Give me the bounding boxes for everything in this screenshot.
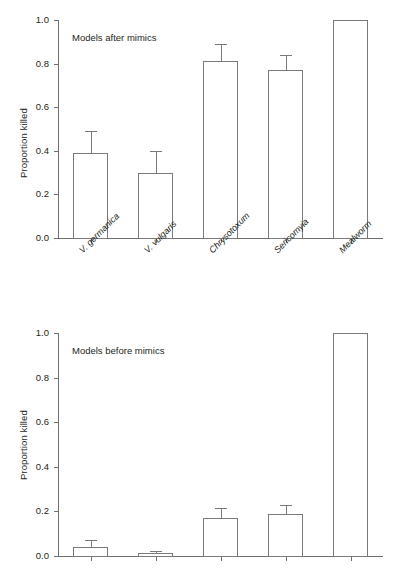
error-bar-cap-bottom-1 bbox=[150, 551, 162, 552]
x-tick-bottom-4 bbox=[351, 557, 352, 561]
y-axis-line-bottom bbox=[58, 333, 59, 556]
error-bar-cap-top-3 bbox=[280, 55, 292, 56]
error-bar-stem-top-2 bbox=[221, 44, 222, 61]
x-tick-bottom-3 bbox=[286, 557, 287, 561]
y-tick-top-1 bbox=[54, 194, 58, 195]
error-bar-stem-top-1 bbox=[156, 151, 157, 173]
y-tick-label-bottom-1: 0.2 bbox=[18, 505, 49, 516]
y-tick-label-top-2: 0.4 bbox=[18, 145, 49, 156]
bar-top-2 bbox=[203, 61, 238, 239]
y-tick-bottom-3 bbox=[54, 422, 58, 423]
error-bar-cap-top-2 bbox=[215, 44, 227, 45]
y-tick-label-bottom-0: 0.0 bbox=[18, 550, 49, 561]
panel-title-top: Models after mimics bbox=[72, 32, 156, 43]
y-tick-bottom-4 bbox=[54, 378, 58, 379]
bar-bottom-0 bbox=[73, 547, 108, 557]
error-bar-stem-bottom-3 bbox=[286, 505, 287, 514]
chart-panel-top: Proportion killed 0.00.20.40.60.81.0V. g… bbox=[0, 0, 393, 300]
figure-container: Proportion killed 0.00.20.40.60.81.0V. g… bbox=[0, 0, 393, 575]
bar-bottom-2 bbox=[203, 518, 238, 557]
y-tick-bottom-5 bbox=[54, 333, 58, 334]
plot-area-top: 0.00.20.40.60.81.0V. germanicaV. vulgari… bbox=[58, 20, 383, 238]
x-tick-bottom-2 bbox=[221, 557, 222, 561]
y-tick-label-top-5: 1.0 bbox=[18, 14, 49, 25]
y-tick-bottom-2 bbox=[54, 467, 58, 468]
x-tick-bottom-0 bbox=[91, 557, 92, 561]
error-bar-stem-top-3 bbox=[286, 55, 287, 70]
error-bar-stem-top-0 bbox=[91, 131, 92, 153]
y-tick-label-bottom-3: 0.6 bbox=[18, 416, 49, 427]
y-tick-label-bottom-4: 0.8 bbox=[18, 372, 49, 383]
y-tick-top-4 bbox=[54, 64, 58, 65]
y-tick-label-bottom-2: 0.4 bbox=[18, 461, 49, 472]
error-bar-cap-top-1 bbox=[150, 151, 162, 152]
y-tick-label-bottom-5: 1.0 bbox=[18, 327, 49, 338]
y-tick-label-top-4: 0.8 bbox=[18, 58, 49, 69]
bar-bottom-4 bbox=[333, 333, 368, 557]
error-bar-cap-bottom-3 bbox=[280, 505, 292, 506]
y-tick-top-3 bbox=[54, 107, 58, 108]
bar-top-4 bbox=[333, 20, 368, 239]
y-tick-top-5 bbox=[54, 20, 58, 21]
y-tick-label-top-3: 0.6 bbox=[18, 101, 49, 112]
error-bar-cap-bottom-0 bbox=[85, 540, 97, 541]
plot-area-bottom: 0.00.20.40.60.81.0Models before mimics bbox=[58, 333, 383, 556]
error-bar-cap-bottom-2 bbox=[215, 508, 227, 509]
y-tick-label-top-1: 0.2 bbox=[18, 188, 49, 199]
x-tick-bottom-1 bbox=[156, 557, 157, 561]
bar-bottom-3 bbox=[268, 514, 303, 557]
bar-top-3 bbox=[268, 70, 303, 239]
error-bar-stem-bottom-0 bbox=[91, 540, 92, 547]
y-tick-bottom-0 bbox=[54, 556, 58, 557]
y-tick-label-top-0: 0.0 bbox=[18, 232, 49, 243]
y-tick-bottom-1 bbox=[54, 511, 58, 512]
y-tick-top-2 bbox=[54, 151, 58, 152]
y-axis-label-top: Proportion killed bbox=[18, 108, 29, 178]
y-axis-line-top bbox=[58, 20, 59, 238]
chart-panel-bottom: Proportion killed 0.00.20.40.60.81.0Mode… bbox=[0, 300, 393, 575]
error-bar-cap-top-0 bbox=[85, 131, 97, 132]
error-bar-stem-bottom-2 bbox=[221, 508, 222, 518]
y-tick-top-0 bbox=[54, 238, 58, 239]
panel-title-bottom: Models before mimics bbox=[72, 345, 164, 356]
